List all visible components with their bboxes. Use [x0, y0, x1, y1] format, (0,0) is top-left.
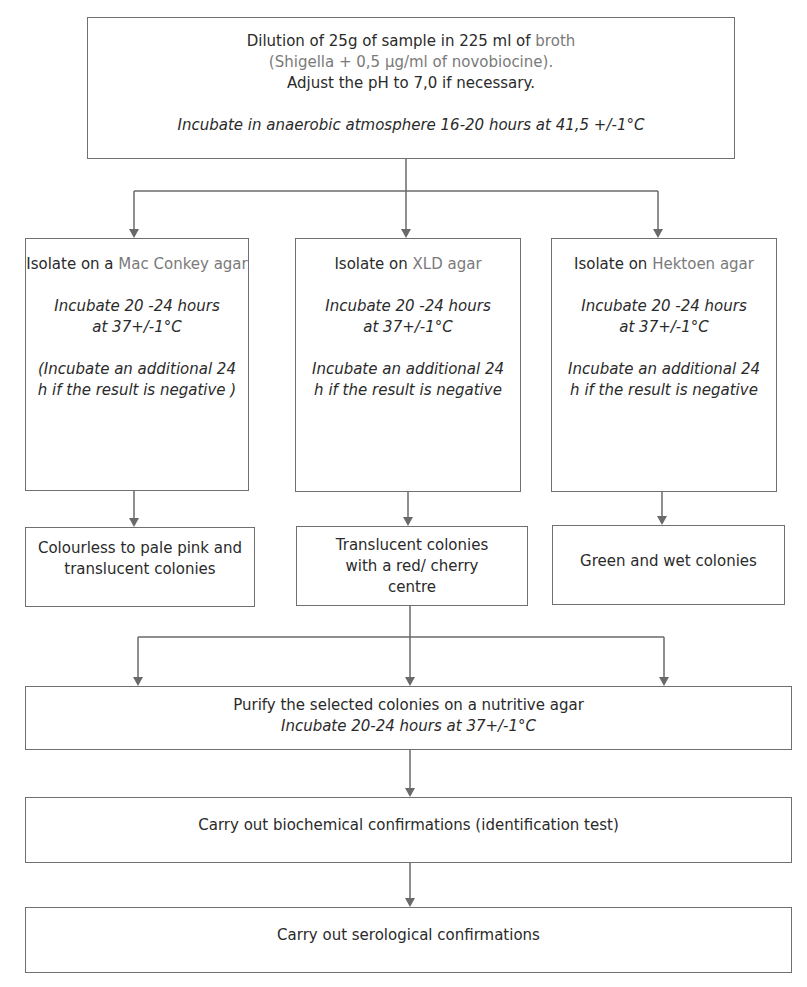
arrow-head	[133, 677, 143, 686]
ph-adjust-text: Adjust the pH to 7,0 if necessary.	[88, 73, 734, 94]
isolation-step-hektoen: Isolate on Hektoen agar Incubate 20 -24 …	[551, 238, 777, 492]
result-maconkey: Colourless to pale pink and translucent …	[25, 527, 255, 607]
arrow-head	[405, 788, 415, 797]
arrow-head	[653, 229, 663, 238]
medium-name: XLD agar	[413, 255, 482, 273]
isolate-label: Isolate on XLD agar	[296, 254, 520, 275]
incubation-temp: at 37+/-1°C	[296, 317, 520, 338]
incubation-temp: at 37+/-1°C	[552, 317, 776, 338]
arrow-head	[403, 517, 413, 526]
biochemical-text: Carry out biochemical confirmations (ide…	[26, 815, 791, 836]
result-text: Colourless to pale pink and translucent …	[26, 538, 254, 580]
dilution-step-box: Dilution of 25g of sample in 225 ml of b…	[87, 17, 735, 159]
result-hektoen: Green and wet colonies	[552, 525, 785, 605]
purify-text: Purify the selected colonies on a nutrit…	[26, 695, 791, 716]
broth-highlight: broth	[535, 32, 575, 50]
arrow-head	[659, 677, 669, 686]
purify-incubation: Incubate 20-24 hours at 37+/-1°C	[26, 716, 791, 737]
incubation-text: Incubate in anaerobic atmosphere 16-20 h…	[88, 115, 734, 136]
arrow-head	[405, 677, 415, 686]
biochemical-confirmation-box: Carry out biochemical confirmations (ide…	[25, 797, 792, 863]
isolation-step-maconkey: Isolate on a Mac Conkey agar Incubate 20…	[25, 238, 249, 491]
additional-incubation-note: (Incubate an additional 24 h if the resu…	[26, 359, 248, 401]
arrow-head	[401, 229, 411, 238]
result-xld: Translucent colonies with a red/ cherry …	[296, 526, 528, 606]
result-text: Translucent colonies with a red/ cherry …	[297, 535, 527, 598]
arrow-head	[657, 516, 667, 525]
additional-incubation-note: Incubate an additional 24 h if the resul…	[552, 359, 776, 401]
isolation-step-xld: Isolate on XLD agar Incubate 20 -24 hour…	[295, 238, 521, 492]
medium-name: Hektoen agar	[652, 255, 754, 273]
purify-step-box: Purify the selected colonies on a nutrit…	[25, 686, 792, 750]
incubation-line: Incubate 20 -24 hours	[296, 296, 520, 317]
isolate-label: Isolate on a Mac Conkey agar	[26, 254, 248, 275]
isolate-label: Isolate on Hektoen agar	[552, 254, 776, 275]
arrow-head	[129, 229, 139, 238]
serological-text: Carry out serological confirmations	[26, 925, 791, 946]
additional-incubation-note: Incubate an additional 24 h if the resul…	[296, 359, 520, 401]
medium-name: Mac Conkey agar	[118, 255, 247, 273]
arrow-head	[129, 518, 139, 527]
serological-confirmation-box: Carry out serological confirmations	[25, 907, 792, 973]
broth-composition: (Shigella + 0,5 µg/ml of novobiocine).	[88, 52, 734, 73]
arrow-head	[405, 898, 415, 907]
dilution-line: Dilution of 25g of sample in 225 ml of b…	[88, 31, 734, 52]
incubation-temp: at 37+/-1°C	[26, 317, 248, 338]
incubation-line: Incubate 20 -24 hours	[26, 296, 248, 317]
result-text: Green and wet colonies	[553, 551, 784, 572]
incubation-line: Incubate 20 -24 hours	[552, 296, 776, 317]
